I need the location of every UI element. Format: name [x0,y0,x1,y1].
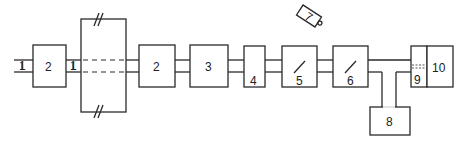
pipe-segment-3 [175,60,190,72]
pipe-segment-6 [317,60,333,72]
label-4: 4 [250,74,257,88]
label-5: 5 [296,74,303,88]
label-1-inlet: 1 [19,59,26,73]
label-3: 3 [205,60,212,74]
pipe-segment-4 [228,60,244,72]
pipe-branch [368,60,411,107]
pipe-segment-2 [126,60,139,72]
block-diagram: 1 1 2 2 3 4 5 6 7 8 9 10 [0,0,464,144]
label-1-inner: 1 [70,59,77,73]
label-8: 8 [386,115,393,129]
label-6: 6 [347,74,354,88]
pipe-segment-5 [265,60,282,72]
label-2b: 2 [153,60,160,74]
label-9: 9 [414,73,421,87]
big-broken-box [81,13,126,118]
label-2a: 2 [45,60,52,74]
label-10: 10 [432,61,446,75]
